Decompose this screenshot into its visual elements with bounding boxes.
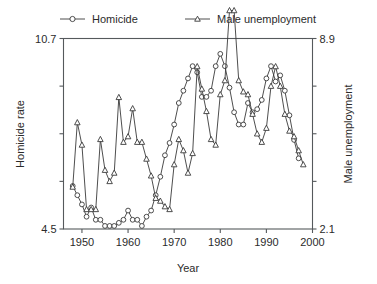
data-point-marker [93, 217, 98, 222]
data-point-marker [273, 79, 278, 84]
data-point-marker [232, 110, 237, 115]
data-point-marker [213, 64, 218, 69]
data-point-marker [107, 224, 112, 229]
data-point-marker [209, 88, 214, 93]
data-point-marker [167, 141, 172, 146]
left-axis-title: Homicide rate [14, 100, 26, 168]
data-point-marker [116, 220, 121, 225]
data-point-marker [190, 64, 195, 69]
data-point-marker [103, 224, 108, 229]
data-point-marker [144, 214, 149, 219]
bottom-tick-label: 1950 [70, 236, 94, 248]
left-tick-label: 10.7 [35, 33, 56, 45]
data-point-marker [75, 193, 80, 198]
legend-label-homicide: Homicide [92, 13, 138, 25]
left-tick-label: 4.5 [41, 223, 56, 235]
data-point-marker [135, 217, 140, 222]
data-point-marker [126, 208, 131, 213]
data-point-marker [176, 101, 181, 106]
right-tick-label: 8.9 [320, 33, 335, 45]
chart-figure: Homicide Male unemployment 4.510.7 2.18.… [0, 0, 377, 284]
homicide-unemployment-line-chart: Homicide Male unemployment 4.510.7 2.18.… [0, 0, 377, 284]
right-axis-title: Male unemployment [342, 84, 354, 183]
data-point-marker [259, 98, 264, 103]
data-point-marker [222, 64, 227, 69]
bottom-axis-title: Year [177, 262, 200, 274]
bottom-tick-label: 2000 [300, 236, 324, 248]
data-point-marker [98, 217, 103, 222]
data-point-marker [139, 224, 144, 229]
legend-marker-circle-icon [70, 16, 75, 21]
data-point-marker [112, 224, 117, 229]
bottom-tick-label: 1980 [208, 236, 232, 248]
data-point-marker [287, 113, 292, 118]
bottom-tick-label: 1960 [116, 236, 140, 248]
data-point-marker [241, 122, 246, 127]
data-point-marker [80, 202, 85, 207]
bottom-tick-label: 1990 [254, 236, 278, 248]
data-point-marker [130, 217, 135, 222]
data-point-marker [282, 88, 287, 93]
data-point-marker [84, 214, 89, 219]
legend-label-male-unemployment: Male unemployment [217, 13, 316, 25]
data-point-marker [264, 76, 269, 81]
data-point-marker [121, 217, 126, 222]
data-point-marker [181, 88, 186, 93]
data-point-marker [158, 174, 163, 179]
data-point-marker [172, 122, 177, 127]
data-point-marker [269, 64, 274, 69]
data-point-marker [255, 107, 260, 112]
data-point-marker [204, 94, 209, 99]
data-point-marker [236, 122, 241, 127]
right-tick-label: 2.1 [320, 223, 335, 235]
data-point-marker [227, 85, 232, 90]
data-point-marker [149, 208, 154, 213]
data-point-marker [186, 76, 191, 81]
bottom-tick-label: 1970 [162, 236, 186, 248]
data-point-marker [218, 51, 223, 56]
data-point-marker [163, 153, 168, 158]
